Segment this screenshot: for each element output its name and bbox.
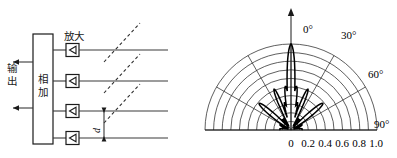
angle-tick-90: 90° bbox=[374, 118, 389, 130]
radial-tick-04: 0.4 bbox=[318, 137, 332, 149]
channel-row-2 bbox=[53, 75, 168, 88]
spacing-dimension bbox=[102, 108, 107, 142]
channel-row-3 bbox=[53, 105, 168, 118]
amplifier-label: 放大 bbox=[64, 30, 85, 42]
wavefront-dashed-3 bbox=[104, 84, 140, 123]
channel-row-1 bbox=[53, 44, 168, 57]
spacing-label-d: d bbox=[91, 127, 102, 133]
channel-row-4 bbox=[53, 132, 168, 145]
radial-tick-0: 0 bbox=[288, 137, 294, 149]
radial-tick-06: 0.6 bbox=[335, 137, 349, 149]
output-arrow-lower bbox=[13, 105, 33, 111]
radial-tick-08: 0.8 bbox=[352, 137, 366, 149]
wavefront-dashed-1 bbox=[104, 23, 140, 62]
angle-tick-0: 0° bbox=[303, 23, 313, 35]
radial-tick-10: 1.0 bbox=[369, 137, 383, 149]
output-label: 输出 bbox=[7, 62, 18, 87]
boresight-axis bbox=[288, 8, 294, 130]
wavefront-dashed-2 bbox=[104, 54, 140, 93]
antenna-array-figure: 相加 输出 放大 bbox=[0, 0, 397, 158]
phased-array-block-diagram: 相加 输出 放大 bbox=[0, 0, 200, 158]
arrow-up-icon bbox=[288, 8, 294, 16]
radiation-pattern-polar-plot: 0° 30° 60° 90° 0 0.2 0.4 0.6 0.8 1.0 bbox=[185, 0, 397, 158]
combiner-label-char1: 相加 bbox=[38, 73, 48, 98]
radial-tick-02: 0.2 bbox=[301, 137, 315, 149]
angle-tick-30: 30° bbox=[341, 29, 356, 41]
angle-tick-60: 60° bbox=[368, 68, 383, 80]
